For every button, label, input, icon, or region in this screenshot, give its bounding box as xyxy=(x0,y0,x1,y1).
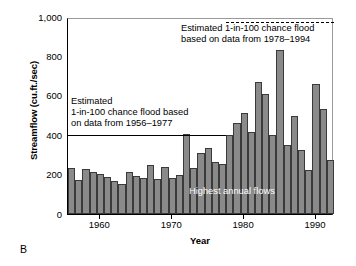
annotation-highest-annual-flows: Highest annual flows xyxy=(189,186,275,197)
y-tick-label: 200 xyxy=(18,170,62,180)
y-tick-label: 0 xyxy=(18,210,62,220)
bar xyxy=(284,145,291,214)
bar xyxy=(161,167,168,214)
bar xyxy=(269,135,276,214)
bar xyxy=(140,178,147,214)
bar xyxy=(68,168,75,214)
bar xyxy=(169,178,176,214)
bar xyxy=(176,175,183,214)
bar xyxy=(75,180,82,214)
bar xyxy=(312,84,319,214)
bar xyxy=(291,116,298,214)
bar xyxy=(298,150,305,214)
annotation-threshold-new: Estimated 1-in-100 chance flood based on… xyxy=(180,23,315,45)
bar xyxy=(305,170,312,214)
bar xyxy=(183,134,190,214)
bar xyxy=(126,172,133,214)
bar xyxy=(248,132,255,214)
x-tick-label: 1960 xyxy=(79,219,119,230)
bar xyxy=(205,148,212,214)
bar xyxy=(82,169,89,214)
bar xyxy=(327,160,334,214)
bar xyxy=(104,177,111,214)
panel-letter: B xyxy=(20,243,27,255)
y-tick-label: 800 xyxy=(18,52,62,62)
chart-figure: Streamflow (cu.ft./sec) 02004006008001,0… xyxy=(0,0,356,266)
y-tick-label: 400 xyxy=(18,131,62,141)
bar xyxy=(133,176,140,214)
x-tick-label: 1990 xyxy=(295,219,335,230)
bar xyxy=(226,135,233,214)
y-tick-label: 1,000 xyxy=(18,13,62,23)
bar xyxy=(90,172,97,214)
bar xyxy=(154,179,161,214)
x-tick-label: 1980 xyxy=(223,219,263,230)
x-tick-label: 1970 xyxy=(151,219,191,230)
bar xyxy=(147,165,154,214)
y-tick-label: 600 xyxy=(18,91,62,101)
bar xyxy=(197,153,204,214)
bar xyxy=(233,123,240,214)
bar xyxy=(118,184,125,214)
bar xyxy=(111,181,118,214)
threshold-old-line xyxy=(68,135,226,136)
x-axis-title: Year xyxy=(67,235,333,246)
bar xyxy=(97,174,104,214)
y-axis-tick-labels: 02004006008001,000 xyxy=(18,0,62,266)
bar xyxy=(320,109,327,214)
annotation-threshold-old: Estimated 1-in-100 chance flood based on… xyxy=(70,96,189,130)
bar xyxy=(276,50,283,214)
bar xyxy=(241,113,248,214)
